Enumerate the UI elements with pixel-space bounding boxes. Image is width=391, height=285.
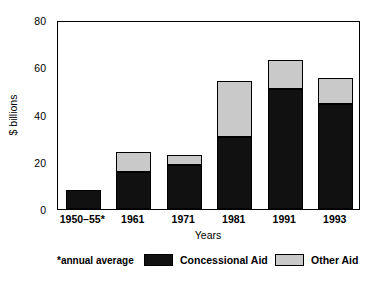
x-axis-tick-label: 1961	[121, 213, 144, 225]
chart-figure: $ billions 020406080 1950–55*19611971198…	[0, 0, 391, 285]
bar-group	[116, 20, 151, 209]
bar-segment-concessional-aid	[116, 172, 151, 209]
y-axis-tick-label: 80	[0, 15, 46, 27]
bar-segment-concessional-aid	[167, 165, 202, 209]
legend-item-other-aid: Other Aid	[275, 252, 358, 268]
x-axis-tick-label: 1971	[172, 213, 195, 225]
y-axis-tick-label: 20	[0, 157, 46, 169]
bar-segment-other-aid	[268, 60, 303, 88]
bar-group	[66, 20, 101, 209]
x-axis-tick-label: 1991	[273, 213, 296, 225]
bar-segment-concessional-aid	[268, 89, 303, 209]
bar-group	[217, 20, 252, 209]
bar-segment-concessional-aid	[318, 104, 353, 209]
x-axis-tick-label: 1950–55*	[60, 213, 105, 225]
y-axis-tick-label: 0	[0, 204, 46, 216]
chart-legend: *annual average Concessional Aid Other A…	[0, 252, 391, 272]
plot-area	[57, 21, 360, 210]
bar-segment-concessional-aid	[66, 190, 101, 209]
bar-segment-other-aid	[116, 152, 151, 172]
legend-swatch-other-aid	[275, 254, 304, 266]
legend-label-other-aid: Other Aid	[311, 254, 358, 266]
bar-segment-other-aid	[318, 78, 353, 104]
bar-segment-other-aid	[167, 155, 202, 166]
bar-group	[167, 20, 202, 209]
bar-group	[318, 20, 353, 209]
bar-segment-concessional-aid	[217, 137, 252, 209]
legend-footnote: *annual average	[57, 255, 134, 266]
x-axis-tick-label: 1993	[323, 213, 346, 225]
y-axis-tick-label: 40	[0, 110, 46, 122]
legend-item-concessional-aid: Concessional Aid	[144, 252, 268, 268]
legend-swatch-concessional-aid	[144, 254, 173, 266]
x-axis-tick-label: 1981	[222, 213, 245, 225]
x-axis-title: Years	[195, 229, 221, 241]
bar-segment-other-aid	[217, 81, 252, 137]
legend-label-concessional-aid: Concessional Aid	[180, 254, 268, 266]
bar-group	[268, 20, 303, 209]
y-axis-tick-label: 60	[0, 62, 46, 74]
